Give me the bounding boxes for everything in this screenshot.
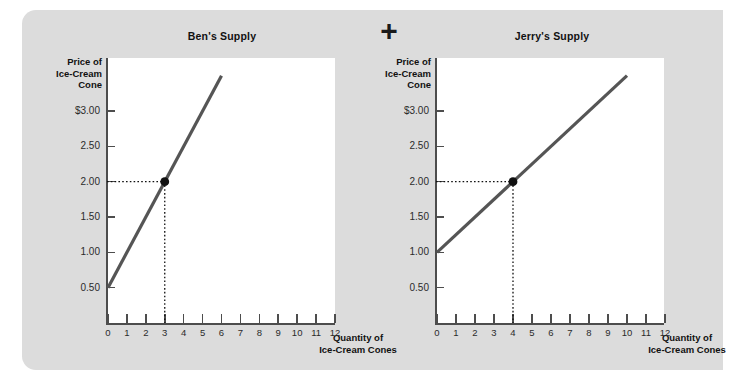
plot-area-ben (108, 58, 335, 323)
x-tick-mark (607, 314, 609, 323)
y-axis-label-line: Price of (16, 56, 102, 68)
x-tick-label: 11 (308, 327, 324, 338)
y-tick-mark (437, 146, 444, 148)
x-axis-ben (106, 323, 335, 325)
y-tick-mark (108, 110, 115, 112)
y-tick-mark (108, 252, 115, 254)
x-tick-mark (531, 314, 533, 323)
x-tick-mark (315, 314, 317, 323)
x-tick-label: 7 (562, 327, 578, 338)
x-tick-label: 1 (119, 327, 135, 338)
x-tick-mark (240, 314, 242, 323)
y-tick-label: $3.00 (381, 105, 429, 116)
x-tick-mark (474, 314, 476, 323)
x-tick-label: 8 (581, 327, 597, 338)
y-axis-label-line: Price of (345, 56, 431, 68)
x-tick-mark (493, 314, 495, 323)
x-tick-label: 12 (657, 327, 673, 338)
x-tick-label: 0 (429, 327, 445, 338)
x-tick-label: 8 (251, 327, 267, 338)
y-tick-mark (437, 216, 444, 218)
x-tick-mark (569, 314, 571, 323)
x-tick-label: 2 (138, 327, 154, 338)
x-tick-label: 10 (289, 327, 305, 338)
x-tick-mark (126, 314, 128, 323)
x-tick-mark (202, 314, 204, 323)
y-axis-label-line: Ice-Cream (345, 68, 431, 80)
x-tick-mark (626, 314, 628, 323)
y-tick-label: 2.00 (381, 176, 429, 187)
x-tick-label: 5 (524, 327, 540, 338)
y-tick-label: 1.50 (52, 211, 100, 222)
x-tick-mark (455, 314, 457, 323)
y-tick-mark (108, 287, 115, 289)
x-tick-mark (664, 314, 666, 323)
x-tick-mark (512, 314, 514, 323)
y-tick-label: 1.00 (381, 246, 429, 257)
y-axis-jerry (435, 58, 437, 325)
plot-area-jerry (437, 58, 664, 323)
y-tick-label: 2.50 (52, 140, 100, 151)
x-tick-label: 1 (448, 327, 464, 338)
x-tick-label: 11 (638, 327, 654, 338)
y-tick-label: 1.00 (52, 246, 100, 257)
y-axis-label-line: Ice-Cream (16, 68, 102, 80)
x-tick-mark (334, 314, 336, 323)
y-axis-label-line: Cone (345, 79, 431, 91)
x-tick-label: 4 (176, 327, 192, 338)
x-tick-mark (296, 314, 298, 323)
x-tick-label: 6 (543, 327, 559, 338)
x-tick-label: 2 (467, 327, 483, 338)
x-tick-mark (164, 314, 166, 323)
y-tick-mark (437, 287, 444, 289)
chart-title-jerry: Jerry's Supply (437, 30, 667, 42)
x-tick-mark (277, 314, 279, 323)
x-tick-mark (183, 314, 185, 323)
x-axis-label-line: Ice-Cream Cones (635, 344, 730, 356)
y-axis-ben (106, 58, 108, 325)
y-tick-mark (437, 252, 444, 254)
y-tick-mark (108, 181, 115, 183)
y-tick-mark (108, 216, 115, 218)
y-tick-mark (437, 110, 444, 112)
y-axis-label-jerry: Price of Ice-Cream Cone (345, 56, 431, 91)
x-tick-label: 6 (214, 327, 230, 338)
x-tick-mark (259, 314, 261, 323)
x-tick-mark (221, 314, 223, 323)
y-tick-label: 2.00 (52, 176, 100, 187)
y-tick-label: 0.50 (381, 282, 429, 293)
x-tick-label: 10 (619, 327, 635, 338)
y-axis-label-line: Cone (16, 79, 102, 91)
x-tick-label: 9 (270, 327, 286, 338)
x-tick-mark (107, 314, 109, 323)
x-tick-label: 3 (157, 327, 173, 338)
y-tick-label: 0.50 (52, 282, 100, 293)
x-tick-mark (550, 314, 552, 323)
y-tick-label: $3.00 (52, 105, 100, 116)
x-tick-label: 0 (100, 327, 116, 338)
x-axis-jerry (435, 323, 664, 325)
x-tick-label: 5 (195, 327, 211, 338)
plus-operator: + (374, 16, 404, 46)
y-tick-label: 1.50 (381, 211, 429, 222)
x-tick-mark (145, 314, 147, 323)
x-axis-label-line: Ice-Cream Cones (306, 344, 410, 356)
y-tick-label: 2.50 (381, 140, 429, 151)
x-tick-mark (645, 314, 647, 323)
y-axis-label-ben: Price of Ice-Cream Cone (16, 56, 102, 91)
x-tick-label: 12 (327, 327, 343, 338)
x-tick-label: 9 (600, 327, 616, 338)
x-tick-label: 4 (505, 327, 521, 338)
y-tick-mark (108, 146, 115, 148)
x-tick-mark (436, 314, 438, 323)
x-tick-mark (588, 314, 590, 323)
x-tick-label: 7 (232, 327, 248, 338)
y-tick-mark (437, 181, 444, 183)
x-tick-label: 3 (486, 327, 502, 338)
chart-title-ben: Ben's Supply (107, 30, 337, 42)
